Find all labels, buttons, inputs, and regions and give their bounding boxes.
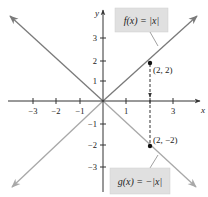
g-label-text: g(x) = −|x| bbox=[118, 176, 163, 188]
y-tick-label: −2 bbox=[88, 140, 97, 150]
f-label-callout: f(x) = |x| bbox=[115, 8, 168, 46]
point-label-2-neg2: (2, −2) bbox=[153, 135, 178, 145]
point-2-neg2 bbox=[148, 144, 152, 148]
y-tick-label: 3 bbox=[93, 33, 97, 43]
y-axis-label: y bbox=[94, 8, 99, 18]
x-tick-label: 1 bbox=[124, 106, 128, 116]
x-axis: −3 −2 −1 1 3 x bbox=[8, 98, 205, 116]
y-tick-label: 2 bbox=[93, 56, 97, 66]
x-tick-label: −1 bbox=[75, 106, 84, 116]
x-tick-label: −3 bbox=[28, 106, 37, 116]
abs-value-chart: −3 −2 −1 1 3 x 3 2 1 −1 −2 −3 y (2, 2) (… bbox=[0, 0, 208, 197]
g-label-callout: g(x) = −|x| bbox=[110, 155, 170, 194]
y-tick-label: −1 bbox=[88, 119, 97, 129]
point-2-2 bbox=[148, 61, 152, 65]
f-label-text: f(x) = |x| bbox=[124, 15, 160, 27]
x-tick-label: 3 bbox=[171, 106, 175, 116]
x-tick-label: −2 bbox=[51, 106, 60, 116]
point-label-2-2: (2, 2) bbox=[153, 65, 173, 75]
y-tick-label: 1 bbox=[93, 76, 97, 86]
y-axis: 3 2 1 −1 −2 −3 y bbox=[88, 8, 106, 192]
x-axis-label: x bbox=[200, 105, 205, 115]
y-tick-label: −3 bbox=[88, 162, 97, 172]
